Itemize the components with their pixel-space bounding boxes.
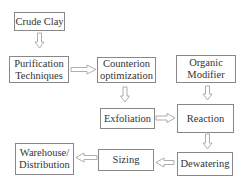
arrow-right-icon [156,114,175,123]
arrow-left-icon [76,153,97,162]
arrow-down-icon [121,87,130,102]
arrow-right-icon [71,65,96,74]
arrow-down-icon [203,134,212,149]
node-counterion-optimization: Counterion optimization [97,57,156,83]
node-reaction: Reaction [177,104,234,133]
node-exfoliation: Exfoliation [100,108,155,129]
node-organic-modifier: Organic Modifier [176,55,236,83]
node-crude-clay: Crude Clay [14,12,65,31]
node-warehouse-distribution: Warehouse/ Distribution [15,143,74,175]
arrow-down-icon [35,33,44,48]
node-sizing: Sizing [98,149,154,171]
node-purification-techniques: Purification Techniques [9,56,69,83]
arrow-left-icon [156,158,174,167]
arrow-down-icon [203,86,212,100]
node-dewatering: Dewatering [177,152,233,176]
